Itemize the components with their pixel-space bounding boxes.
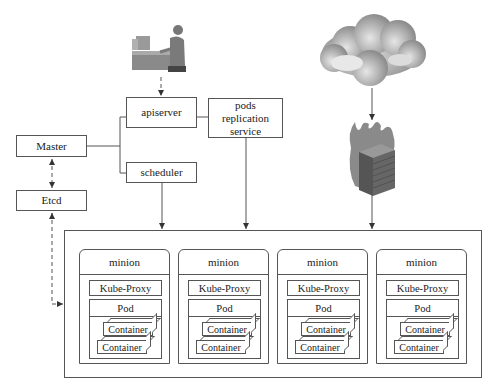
pod: Pod Container Container [287, 299, 360, 359]
container: Container [202, 322, 252, 336]
etcd-label: Etcd [41, 194, 61, 207]
container: Container [301, 322, 351, 336]
master-box: Master [16, 135, 87, 157]
pods-replication-service-box: pods replication service [208, 98, 283, 138]
minion-title: minion [377, 250, 466, 275]
kube-proxy: Kube-Proxy [287, 280, 360, 296]
container: Container [196, 340, 246, 354]
container: Container [103, 322, 153, 336]
scheduler-label: scheduler [140, 166, 182, 179]
minion-node: minion Kube-Proxy Pod Container Containe… [178, 249, 269, 364]
pod-title: Pod [387, 300, 458, 317]
pod: Pod Container Container [386, 299, 459, 359]
cloud-icon [312, 8, 432, 90]
container: Container [400, 322, 450, 336]
minion-title: minion [278, 250, 367, 275]
scheduler-box: scheduler [126, 162, 197, 183]
kube-proxy: Kube-Proxy [188, 280, 261, 296]
pods-label: pods [235, 99, 256, 112]
minion-node: minion Kube-Proxy Pod Container Containe… [277, 249, 368, 364]
etcd-box: Etcd [16, 190, 87, 211]
user-at-computer-icon [130, 22, 192, 78]
kube-proxy: Kube-Proxy [386, 280, 459, 296]
apiserver-label: apiserver [141, 106, 181, 119]
container: Container [97, 340, 147, 354]
firewall-icon [345, 118, 401, 200]
service-label: service [230, 125, 261, 138]
pod-title: Pod [90, 300, 161, 317]
minion-node: minion Kube-Proxy Pod Container Containe… [79, 249, 170, 364]
master-label: Master [36, 140, 67, 153]
minion-title: minion [80, 250, 169, 275]
replication-label: replication [222, 112, 269, 125]
pod-title: Pod [189, 300, 260, 317]
apiserver-box: apiserver [126, 97, 197, 128]
cluster-box: minion Kube-Proxy Pod Container Containe… [64, 230, 482, 378]
pod-title: Pod [288, 300, 359, 317]
container: Container [295, 340, 345, 354]
container: Container [394, 340, 444, 354]
minion-title: minion [179, 250, 268, 275]
pod: Pod Container Container [89, 299, 162, 359]
kube-proxy: Kube-Proxy [89, 280, 162, 296]
minion-node: minion Kube-Proxy Pod Container Containe… [376, 249, 467, 364]
pod: Pod Container Container [188, 299, 261, 359]
